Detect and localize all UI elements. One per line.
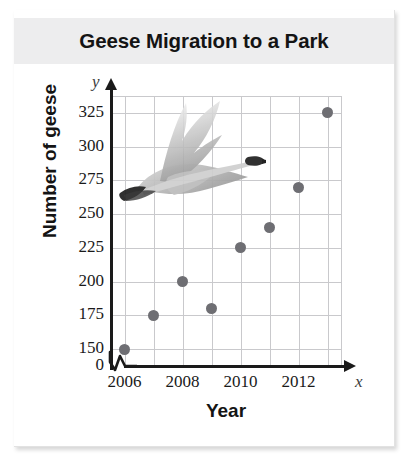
data-point bbox=[235, 242, 246, 253]
x-tick-label: 2012 bbox=[271, 372, 327, 392]
chart-card: Geese Migration to a Park bbox=[14, 10, 395, 447]
gridline-vertical bbox=[154, 96, 155, 366]
gridline-horizontal bbox=[110, 113, 342, 114]
gridline-horizontal bbox=[110, 282, 342, 283]
data-point bbox=[177, 276, 188, 287]
gridline-vertical bbox=[125, 96, 126, 366]
gridline-horizontal bbox=[110, 349, 342, 350]
gridline-horizontal bbox=[110, 214, 342, 215]
y-axis-arrow-icon bbox=[105, 78, 117, 90]
y-axis-letter: y bbox=[92, 72, 100, 92]
y-tick-label: 200 bbox=[60, 271, 104, 291]
plot-frame-top bbox=[110, 96, 342, 97]
axis-break-icon bbox=[107, 350, 137, 372]
y-tick-label: 175 bbox=[60, 304, 104, 324]
y-tick-label: 275 bbox=[60, 169, 104, 189]
data-point bbox=[322, 107, 333, 118]
x-axis-line bbox=[124, 365, 346, 368]
y-axis-title: Number of geese bbox=[39, 61, 61, 261]
y-axis-line bbox=[110, 88, 113, 370]
y-tick-label: 225 bbox=[60, 237, 104, 257]
gridline-horizontal bbox=[110, 315, 342, 316]
gridline-vertical bbox=[183, 96, 184, 366]
data-point bbox=[206, 303, 217, 314]
y-tick-label: 300 bbox=[60, 136, 104, 156]
flying-goose-icon bbox=[116, 95, 266, 223]
gridline-horizontal bbox=[110, 248, 342, 249]
x-axis-letter: x bbox=[355, 372, 363, 392]
x-tick-label: 2010 bbox=[213, 372, 269, 392]
gridline-vertical bbox=[299, 96, 300, 366]
gridline-horizontal bbox=[110, 147, 342, 148]
gridline-vertical bbox=[212, 96, 213, 366]
x-tick-label: 2006 bbox=[97, 372, 153, 392]
plot-area bbox=[110, 96, 342, 366]
x-axis-arrow-icon bbox=[344, 360, 356, 372]
plot-wrapper: 3253002752502252001751500 20062008201020… bbox=[14, 10, 394, 446]
gridline-horizontal bbox=[110, 180, 342, 181]
data-point bbox=[264, 222, 275, 233]
y-tick-label: 325 bbox=[60, 102, 104, 122]
plot-frame-right bbox=[341, 96, 342, 366]
data-point bbox=[148, 310, 159, 321]
y-tick-label: 250 bbox=[60, 203, 104, 223]
gridline-vertical bbox=[328, 96, 329, 366]
x-axis-title: Year bbox=[110, 400, 342, 422]
data-point bbox=[293, 182, 304, 193]
gridline-vertical bbox=[241, 96, 242, 366]
x-tick-label: 2008 bbox=[155, 372, 211, 392]
